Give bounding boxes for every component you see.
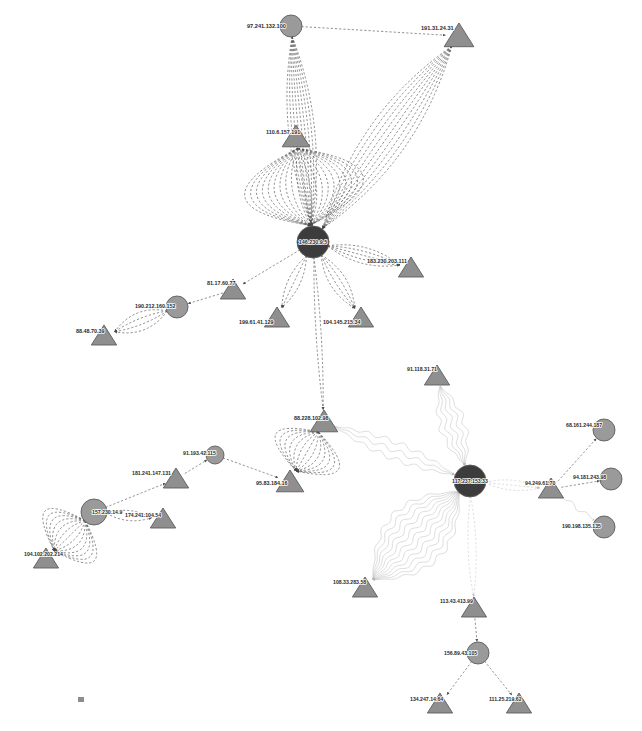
node-label: 91.118.31.71 — [407, 366, 437, 372]
graph-edge — [275, 428, 318, 471]
graph-edge — [53, 519, 86, 551]
node-label: 146.230.9.5 — [299, 239, 327, 245]
node-label: 88.48.70.39 — [76, 328, 104, 334]
node-label: 190.212.160.152 — [135, 303, 175, 309]
graph-edge — [243, 250, 300, 284]
node-label: 68.161.244.187 — [566, 422, 602, 428]
label-layer: 97.241.132.100191.31.24.31110.6.157.1911… — [24, 23, 606, 702]
graph-edge — [314, 257, 323, 409]
node-label: 91.193.42.115 — [183, 450, 216, 456]
graph-edge — [115, 311, 168, 332]
node-label: 111.25.219.62 — [489, 696, 522, 702]
graph-edge — [440, 386, 469, 465]
graph-edge — [54, 521, 85, 551]
graph-edge — [468, 496, 474, 596]
graph-edge — [294, 432, 318, 471]
graph-edge — [561, 481, 599, 487]
node-label: 108.33.283.58 — [333, 579, 366, 585]
graph-edge — [290, 432, 319, 471]
graph-edge — [54, 521, 87, 553]
graph-edge — [185, 460, 207, 474]
node-label: 113.43.413.99 — [440, 598, 473, 604]
graph-edge — [321, 255, 355, 308]
node-label: 117.237.153.33 — [452, 478, 488, 484]
graph-edge — [298, 148, 358, 225]
node-label: 97.241.132.100 — [247, 23, 286, 29]
graph-edge — [560, 495, 595, 520]
graph-edge — [485, 661, 512, 695]
page-artifact-mark — [78, 697, 84, 702]
graph-edge — [223, 458, 278, 478]
graph-edge — [245, 148, 311, 225]
graph-edge — [335, 426, 455, 474]
node-label: 88.228.102.98 — [294, 415, 328, 421]
node-label: 157.230.14.9 — [92, 509, 122, 515]
node-label: 95.83.184.16 — [256, 480, 287, 486]
graph-edge — [321, 255, 355, 308]
edge-layer — [43, 27, 600, 695]
graph-edge — [314, 257, 323, 409]
node-label: 183.230.203.111 — [367, 258, 407, 264]
node-layer — [33, 15, 622, 713]
node-label: 104.145.215.34 — [323, 319, 360, 325]
graph-edge — [475, 618, 477, 641]
graph-edge — [321, 255, 355, 308]
graph-edge — [106, 483, 166, 507]
node-label: 104.102.202.214 — [24, 551, 63, 557]
graph-edge — [296, 432, 329, 471]
graph-edge — [115, 311, 168, 332]
graph-edge — [50, 516, 85, 551]
graph-edge — [188, 293, 223, 304]
graph-node-triangle[interactable] — [150, 508, 175, 528]
graph-edge — [373, 492, 459, 580]
node-label: 110.6.157.191 — [266, 129, 300, 135]
node-label: 181.241.147.131 — [132, 470, 171, 476]
node-label: 174.241.104.54 — [125, 512, 161, 518]
node-label: 134.247.14.64 — [410, 696, 443, 702]
node-label: 81.17.60.77 — [207, 280, 235, 286]
node-label: 191.31.24.31 — [421, 25, 454, 31]
node-label: 156.89.43.105 — [444, 650, 477, 656]
graph-edge — [296, 432, 318, 471]
graph-edge — [282, 256, 307, 308]
graph-edge — [280, 430, 318, 471]
network-graph-canvas: 97.241.132.100191.31.24.31110.6.157.1911… — [0, 0, 642, 731]
graph-edge — [447, 661, 472, 694]
graph-edge — [321, 255, 355, 308]
graph-edge — [298, 148, 311, 225]
graph-edge — [115, 311, 168, 333]
node-label: 199.61.41.129 — [239, 319, 273, 325]
node-label: 94.249.61.70 — [525, 480, 555, 486]
graph-edge — [115, 310, 168, 332]
node-label: 190.198.135.135 — [562, 523, 601, 529]
node-label: 94.181.243.98 — [573, 474, 606, 480]
